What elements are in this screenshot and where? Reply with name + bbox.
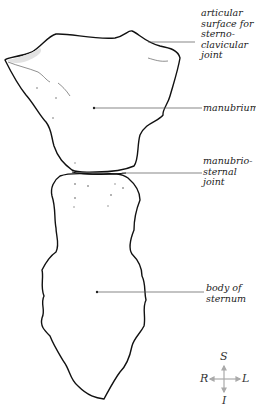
- label-body-of-sternum: body of sternum: [206, 283, 246, 304]
- bone-pore: [55, 97, 56, 98]
- compass-left: L: [242, 372, 249, 385]
- bone-pore: [107, 205, 108, 206]
- orientation-compass-arrows: [210, 366, 240, 392]
- bone-pore: [74, 197, 76, 199]
- label-manubriosternal-joint: manubrio- sternal joint: [203, 156, 253, 188]
- bone-pore: [87, 185, 89, 187]
- compass-superior: S: [220, 350, 228, 363]
- label-manubrium: manubrium: [203, 103, 256, 114]
- compass-inferior: I: [222, 394, 226, 407]
- bone-pore: [36, 87, 37, 88]
- bone-pore: [122, 187, 124, 189]
- manubrium-pointer-dot: [93, 107, 95, 109]
- bone-pore: [73, 206, 74, 207]
- bone-pore: [74, 183, 76, 185]
- bone-pore: [114, 183, 115, 184]
- label-articular-surface: articular surface for sterno- clavicular…: [201, 8, 253, 61]
- bone-pore: [110, 194, 112, 196]
- sternum-body-outline: [41, 174, 146, 400]
- sternum-diagram: [0, 0, 256, 411]
- compass-right: R: [200, 372, 208, 385]
- bone-pore: [52, 117, 53, 118]
- bone-pore: [74, 162, 75, 163]
- body-pointer-dot: [96, 291, 98, 293]
- manubrium-outline: [5, 31, 180, 172]
